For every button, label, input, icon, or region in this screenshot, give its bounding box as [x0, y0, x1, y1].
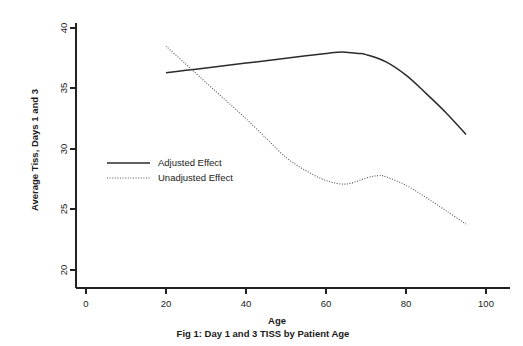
x-ticklabel-1: 20 [161, 298, 172, 309]
figure-container: 40 35 30 25 20 0 20 40 60 80 100 Average… [0, 0, 523, 346]
x-ticklabel-2: 40 [241, 298, 252, 309]
x-ticklabel-4: 80 [401, 298, 412, 309]
x-axis-title: Age [268, 315, 286, 326]
y-ticklabel-3: 25 [58, 204, 69, 215]
legend-label-adjusted-effect: Adjusted Effect [158, 157, 222, 168]
chart-legend: Adjusted Effect Unadjusted Effect [107, 157, 233, 183]
x-ticklabel-0: 0 [83, 298, 88, 309]
data-series-group [166, 46, 466, 224]
y-ticklabel-1: 35 [58, 83, 69, 94]
legend-label-unadjusted-effect: Unadjusted Effect [158, 172, 233, 183]
series-line-unadjusted-effect [166, 46, 466, 224]
x-ticklabel-5: 100 [478, 298, 494, 309]
y-ticklabel-0: 40 [58, 23, 69, 34]
y-axis-tick-labels: 40 35 30 25 20 [58, 23, 69, 276]
y-ticklabel-2: 30 [58, 144, 69, 155]
y-ticklabel-4: 20 [58, 265, 69, 276]
x-ticklabel-3: 60 [321, 298, 332, 309]
x-axis-tick-labels: 0 20 40 60 80 100 [83, 298, 494, 309]
x-axis-ticks [86, 288, 486, 294]
figure-caption: Fig 1: Day 1 and 3 TISS by Patient Age [177, 328, 350, 339]
chart-canvas: 40 35 30 25 20 0 20 40 60 80 100 Average… [0, 0, 523, 346]
series-line-adjusted-effect [166, 52, 466, 134]
y-axis-ticks [70, 28, 76, 270]
y-axis-title: Average Tiss, Days 1 and 3 [29, 89, 40, 211]
